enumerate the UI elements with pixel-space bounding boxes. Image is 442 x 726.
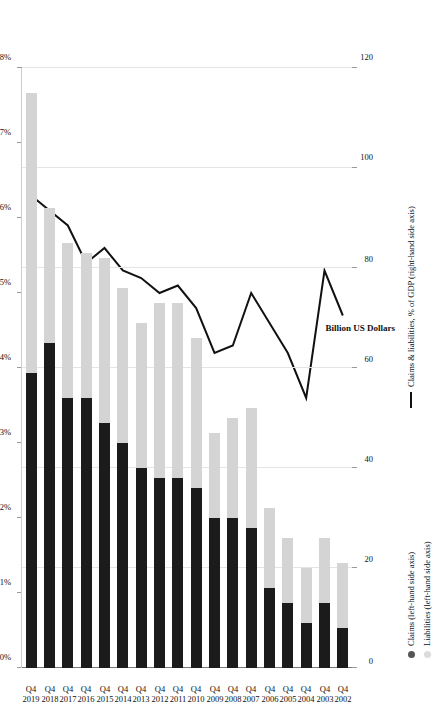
bar-row xyxy=(99,68,110,668)
bar-row xyxy=(282,68,293,668)
legend-label: Claims & liabilities, % of GDP (right-ha… xyxy=(406,206,416,387)
bar-row xyxy=(81,68,92,668)
bar-row xyxy=(44,68,55,668)
bar-segment-claims xyxy=(172,478,183,668)
right-axis-tick-label: 5% xyxy=(0,277,11,287)
bar-segment-claims xyxy=(99,423,110,668)
bar-segment-claims xyxy=(81,398,92,668)
category-label: Q42010 xyxy=(188,684,205,704)
bar-row xyxy=(154,68,165,668)
category-label: Q42007 xyxy=(243,684,260,704)
category-year: 2014 xyxy=(114,694,131,704)
category-label: Q42019 xyxy=(23,684,40,704)
category-label: Q42016 xyxy=(78,684,95,704)
left-axis-tick-label: 40 xyxy=(365,454,374,464)
category-label: Q42002 xyxy=(334,684,351,704)
legend-label: Claims (left-hand side axis) xyxy=(406,552,416,646)
category-label: Q42011 xyxy=(169,684,186,704)
legend-line-icon xyxy=(410,392,412,408)
top-axis-rule xyxy=(21,68,22,668)
bar-row xyxy=(264,68,275,668)
bar-segment-liabilities xyxy=(191,338,202,488)
category-year: 2019 xyxy=(23,694,40,704)
category-year: 2018 xyxy=(41,694,58,704)
bar-segment-liabilities xyxy=(209,433,220,518)
category-label: Q42013 xyxy=(133,684,150,704)
bar-row xyxy=(136,68,147,668)
category-quarter: Q4 xyxy=(78,684,95,694)
right-axis-tick-label: 6% xyxy=(0,202,11,212)
right-axis-tick-label: 4% xyxy=(0,352,11,362)
category-quarter: Q4 xyxy=(133,684,150,694)
category-quarter: Q4 xyxy=(23,684,40,694)
plot-area xyxy=(22,68,352,668)
bar-segment-liabilities xyxy=(264,508,275,588)
chart-legend: Claims (left-hand side axis)Liabilities … xyxy=(404,58,442,658)
left-axis-tick-label: 100 xyxy=(360,152,373,162)
bar-segment-liabilities xyxy=(282,538,293,603)
right-axis-tick-label: 1% xyxy=(0,577,11,587)
left-axis-tick-label: 0 xyxy=(369,656,373,666)
category-quarter: Q4 xyxy=(206,684,223,694)
bar-segment-claims xyxy=(264,588,275,668)
legend-item[interactable]: Claims (left-hand side axis) xyxy=(406,552,416,658)
left-axis-tick-label: 60 xyxy=(365,354,374,364)
category-quarter: Q4 xyxy=(41,684,58,694)
bar-segment-liabilities xyxy=(246,408,257,528)
category-year: 2016 xyxy=(78,694,95,704)
axis-tick xyxy=(352,567,357,568)
category-year: 2007 xyxy=(243,694,260,704)
bar-segment-liabilities xyxy=(26,93,37,373)
bar-segment-claims xyxy=(191,488,202,668)
axis-tick xyxy=(352,667,357,668)
category-year: 2009 xyxy=(206,694,223,704)
bar-row xyxy=(246,68,257,668)
category-quarter: Q4 xyxy=(224,684,241,694)
bar-segment-claims xyxy=(227,518,238,668)
category-label: Q42015 xyxy=(96,684,113,704)
category-quarter: Q4 xyxy=(188,684,205,694)
category-year: 2005 xyxy=(279,694,296,704)
category-label: Q42014 xyxy=(114,684,131,704)
category-label: Q42008 xyxy=(224,684,241,704)
bar-row xyxy=(227,68,238,668)
category-year: 2010 xyxy=(188,694,205,704)
category-label: Q42018 xyxy=(41,684,58,704)
category-label: Q42006 xyxy=(261,684,278,704)
category-year: 2004 xyxy=(298,694,315,704)
bar-row xyxy=(319,68,330,668)
category-year: 2002 xyxy=(334,694,351,704)
category-year: 2015 xyxy=(96,694,113,704)
bar-row xyxy=(26,68,37,668)
bar-segment-claims xyxy=(44,343,55,668)
legend-item[interactable]: Liabilities (left-hand side axis) xyxy=(422,541,432,658)
legend-item[interactable]: Claims & liabilities, % of GDP (right-ha… xyxy=(406,206,416,408)
legend-label: Liabilities (left-hand side axis) xyxy=(422,541,432,646)
category-year: 2006 xyxy=(261,694,278,704)
bar-row xyxy=(301,68,312,668)
bar-segment-liabilities xyxy=(301,568,312,623)
category-quarter: Q4 xyxy=(151,684,168,694)
category-label: Q42017 xyxy=(59,684,76,704)
bar-segment-claims xyxy=(282,603,293,668)
category-label: Q42012 xyxy=(151,684,168,704)
left-axis-tick-label: 20 xyxy=(365,554,374,564)
bar-segment-claims xyxy=(319,603,330,668)
category-year: 2017 xyxy=(59,694,76,704)
right-axis-tick-label: 2% xyxy=(0,502,11,512)
bar-segment-claims xyxy=(246,528,257,668)
category-quarter: Q4 xyxy=(169,684,186,694)
bar-row xyxy=(337,68,348,668)
right-axis-tick-label: 8% xyxy=(0,52,11,62)
left-axis-tick-label: 80 xyxy=(365,254,374,264)
legend-dot-icon xyxy=(408,651,415,658)
bar-row xyxy=(117,68,128,668)
axis-tick xyxy=(352,367,357,368)
bar-segment-liabilities xyxy=(99,258,110,423)
category-label: Q42009 xyxy=(206,684,223,704)
bar-segment-claims xyxy=(209,518,220,668)
category-label: Q42005 xyxy=(279,684,296,704)
category-label: Q42003 xyxy=(316,684,333,704)
bar-segment-claims xyxy=(62,398,73,668)
axis-tick xyxy=(352,67,357,68)
